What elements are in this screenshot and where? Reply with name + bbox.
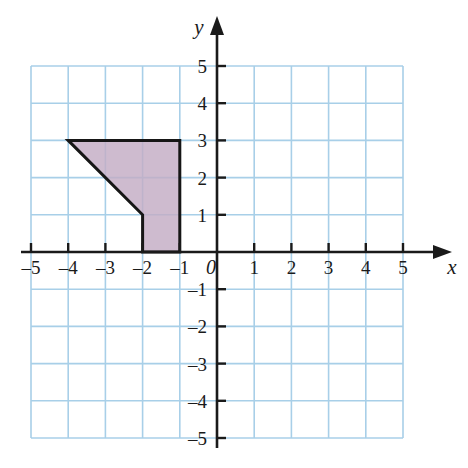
- coordinate-plane-svg: –5–4–3–2–112345–5–4–3–2–1123450xy: [0, 0, 468, 468]
- y-tick-label: 1: [198, 205, 208, 226]
- y-tick-label: –4: [187, 391, 208, 412]
- x-tick-label: 2: [287, 257, 297, 278]
- coordinate-plane-figure: –5–4–3–2–112345–5–4–3–2–1123450xy: [0, 0, 468, 468]
- y-tick-label: –5: [187, 428, 207, 449]
- y-tick-label: –2: [187, 316, 207, 337]
- y-tick-label: 3: [198, 130, 208, 151]
- origin-label: 0: [206, 256, 216, 278]
- shaded-polygon: [68, 140, 180, 252]
- x-tick-label: –1: [169, 257, 189, 278]
- axes: [21, 16, 452, 448]
- x-tick-label: 5: [398, 257, 408, 278]
- y-tick-label: 4: [198, 93, 208, 114]
- y-tick-label: –1: [187, 279, 207, 300]
- x-tick-label: 1: [249, 257, 259, 278]
- x-tick-label: –2: [132, 257, 152, 278]
- x-tick-label: –3: [95, 257, 115, 278]
- x-tick-label: –4: [58, 257, 79, 278]
- y-tick-label: –3: [187, 354, 207, 375]
- y-axis-label: y: [192, 15, 204, 39]
- y-tick-label: 2: [198, 168, 208, 189]
- x-tick-label: 4: [361, 257, 371, 278]
- x-axis-label: x: [446, 255, 457, 279]
- x-tick-label: –5: [21, 257, 41, 278]
- x-tick-label: 3: [324, 257, 334, 278]
- axis-names: 0xy: [192, 15, 457, 279]
- shapes-layer: [68, 140, 180, 252]
- y-axis-arrowhead: [210, 16, 224, 35]
- y-tick-label: 5: [198, 56, 208, 77]
